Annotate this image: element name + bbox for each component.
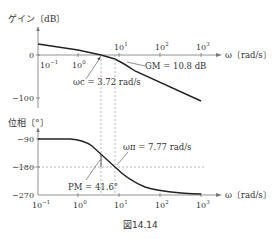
svg-text:10−1: 10−1 — [32, 199, 50, 210]
wpi-annotation: ωπ = 7.77 rad/s — [123, 142, 191, 152]
svg-text:102: 102 — [155, 199, 169, 210]
gm-pointer — [127, 62, 145, 66]
svg-text:103: 103 — [196, 199, 210, 210]
wpi-pointer — [117, 152, 128, 165]
pm-pointer — [86, 160, 100, 180]
phase-tick-minus180: −180 — [12, 163, 34, 172]
gain-plot: ゲイン〔dB〕 ω〔rad/s〕 0 −100 10−1 100 101 102… — [8, 13, 272, 108]
wc-annotation: ωc = 3.72 rad/s — [73, 77, 141, 87]
wc-pointer — [86, 58, 100, 79]
gain-y-arrow-icon — [36, 26, 39, 31]
gain-tick-minus100: −100 — [12, 94, 34, 103]
phase-tick-minus90: −90 — [17, 135, 34, 144]
gm-annotation: GM = 10.8 dB — [145, 61, 206, 71]
gain-tick-0: 0 — [29, 51, 34, 60]
phase-tick-minus270: −270 — [12, 191, 34, 200]
phase-x-tick-labels: 10−1 100 101 102 103 — [32, 199, 210, 210]
figure-caption: 図14.14 — [123, 220, 158, 230]
gain-x-axis-label: ω〔rad/s〕 — [225, 50, 272, 60]
phase-axis-label: 位相〔°〕 — [8, 117, 49, 128]
svg-text:101: 101 — [114, 199, 128, 210]
gain-x-arrow-icon — [216, 53, 222, 57]
gain-axis-label: ゲイン〔dB〕 — [8, 13, 65, 24]
pm-annotation: PM = 41.6° — [68, 182, 118, 192]
phase-x-axis-label: ω〔rad/s〕 — [225, 190, 272, 200]
bode-plot: ゲイン〔dB〕 ω〔rad/s〕 0 −100 10−1 100 101 102… — [0, 0, 279, 239]
svg-text:10−1: 10−1 — [40, 59, 58, 70]
svg-text:103: 103 — [196, 41, 210, 52]
svg-text:100: 100 — [72, 59, 86, 70]
phase-plot: 位相〔°〕 ω〔rad/s〕 −90 −180 −270 10−1 100 10… — [8, 117, 272, 210]
svg-text:102: 102 — [155, 41, 169, 52]
phase-x-arrow-icon — [216, 193, 222, 197]
svg-text:100: 100 — [73, 199, 87, 210]
svg-text:101: 101 — [114, 41, 128, 52]
gain-curve — [38, 44, 201, 101]
